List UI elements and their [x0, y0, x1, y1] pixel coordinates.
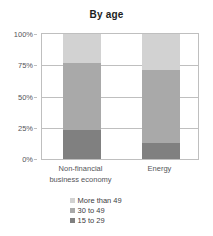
legend-label: 30 to 49	[78, 206, 105, 215]
y-tick-label: 100%	[14, 30, 33, 39]
bar-segment[interactable]	[63, 34, 101, 63]
x-tick-label-line: business economy	[31, 175, 130, 186]
legend-item[interactable]: More than 49	[70, 196, 144, 205]
plot-area	[41, 33, 199, 160]
legend-label: More than 49	[78, 196, 122, 205]
bar-group	[63, 34, 101, 159]
y-tick-mark	[34, 65, 37, 66]
bar-segment[interactable]	[63, 63, 101, 131]
y-tick-label: 25%	[18, 123, 33, 132]
chart-legend: More than 4930 to 4915 to 29	[0, 196, 213, 226]
y-tick-label: 0%	[22, 155, 33, 164]
y-tick-mark	[34, 159, 37, 160]
legend-swatch-icon	[70, 218, 75, 223]
y-tick-mark	[34, 128, 37, 129]
bar-segment[interactable]	[142, 70, 180, 143]
legend-item[interactable]: 15 to 29	[70, 216, 144, 225]
bar-group	[142, 34, 180, 159]
stacked-bar[interactable]	[142, 34, 180, 159]
bar-segment[interactable]	[142, 34, 180, 70]
legend-swatch-icon	[70, 208, 75, 213]
y-tick-mark	[34, 34, 37, 35]
y-axis: 100%75%50%25%0%	[0, 33, 37, 160]
y-tick-label: 50%	[18, 92, 33, 101]
x-tick-label-line: Energy	[110, 164, 209, 175]
bar-segment[interactable]	[142, 143, 180, 159]
chart-container: By age 100%75%50%25%0% Non-financialbusi…	[0, 0, 213, 236]
y-tick-mark	[34, 97, 37, 98]
legend-item[interactable]: 30 to 49	[70, 206, 144, 215]
legend-swatch-icon	[70, 198, 75, 203]
x-tick-label: Energy	[110, 164, 209, 175]
chart-title: By age	[0, 9, 213, 20]
y-tick-label: 75%	[18, 61, 33, 70]
bar-segment[interactable]	[63, 130, 101, 159]
stacked-bar[interactable]	[63, 34, 101, 159]
legend-label: 15 to 29	[78, 216, 105, 225]
x-axis: Non-financialbusiness economyEnergy	[41, 164, 199, 196]
